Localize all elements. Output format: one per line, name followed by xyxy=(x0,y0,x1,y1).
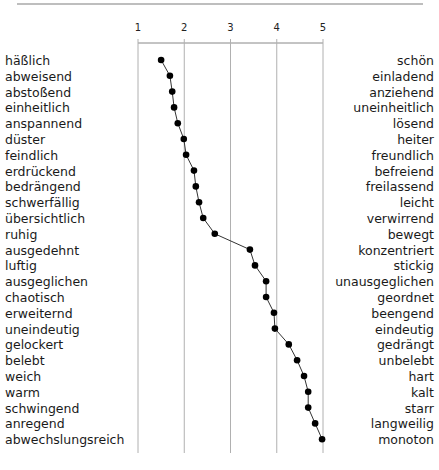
data-markers xyxy=(158,57,326,443)
data-point xyxy=(272,325,279,332)
left-label: weich xyxy=(5,369,41,384)
left-label: chaotisch xyxy=(5,290,65,305)
data-point xyxy=(174,120,181,127)
right-label: uneinheitlich xyxy=(353,100,434,115)
grid-lines xyxy=(138,39,323,453)
right-label: kalt xyxy=(411,385,434,400)
x-tick-label: 3 xyxy=(227,22,233,33)
data-point xyxy=(319,436,326,443)
data-point xyxy=(200,215,207,222)
data-point xyxy=(252,262,259,269)
data-point xyxy=(271,310,278,317)
left-label: häßlich xyxy=(5,53,50,68)
x-tick-label: 4 xyxy=(274,22,280,33)
x-tick-label: 5 xyxy=(320,22,326,33)
data-point xyxy=(305,404,312,411)
left-label: uneindeutig xyxy=(5,322,80,337)
right-label: anziehend xyxy=(369,85,434,100)
data-point xyxy=(183,152,190,159)
right-label: leicht xyxy=(400,195,434,210)
left-label: schwingend xyxy=(5,401,79,416)
profile-line xyxy=(161,60,322,439)
data-point xyxy=(196,199,203,206)
right-labels: schöneinladendanziehenduneinheitlichlöse… xyxy=(335,53,435,447)
left-label: abwechslungsreich xyxy=(5,432,124,447)
data-point xyxy=(247,246,254,253)
x-tick-label: 1 xyxy=(135,22,141,33)
right-label: beengend xyxy=(371,306,434,321)
left-label: ausgeglichen xyxy=(5,274,88,289)
right-label: freilassend xyxy=(366,179,434,194)
left-label: ausgedehnt xyxy=(5,243,79,258)
data-point xyxy=(312,420,319,427)
data-point xyxy=(211,231,218,238)
left-label: erweiternd xyxy=(5,306,73,321)
data-point xyxy=(263,294,270,301)
right-label: schön xyxy=(397,53,434,68)
left-label: bedrängend xyxy=(5,179,81,194)
left-label: schwerfällig xyxy=(5,195,80,210)
data-point xyxy=(191,167,198,174)
right-label: starr xyxy=(405,401,435,416)
data-point xyxy=(171,104,178,111)
semantic-differential-chart: 12345 häßlichabweisendabstoßendeinheitli… xyxy=(0,0,439,470)
left-label: anregend xyxy=(5,416,65,431)
right-label: konzentriert xyxy=(358,243,434,258)
data-point xyxy=(169,88,176,95)
left-label: abweisend xyxy=(5,69,72,84)
right-label: eindeutig xyxy=(375,322,434,337)
x-tick-label: 2 xyxy=(181,22,187,33)
right-label: lösend xyxy=(393,116,434,131)
right-label: gedrängt xyxy=(377,337,434,352)
left-label: gelockert xyxy=(5,337,63,352)
left-label: warm xyxy=(5,385,40,400)
left-label: übersichtlich xyxy=(5,211,85,226)
data-point xyxy=(158,57,165,64)
right-label: befreiend xyxy=(374,164,434,179)
right-label: unausgeglichen xyxy=(335,274,434,289)
left-label: anspannend xyxy=(5,116,82,131)
right-label: einladend xyxy=(372,69,434,84)
data-point xyxy=(180,136,187,143)
left-label: einheitlich xyxy=(5,100,70,115)
right-label: geordnet xyxy=(377,290,434,305)
right-label: hart xyxy=(408,369,434,384)
left-labels: häßlichabweisendabstoßendeinheitlichansp… xyxy=(5,53,124,447)
left-label: ruhig xyxy=(5,227,37,242)
left-label: abstoßend xyxy=(5,85,71,100)
left-label: erdrückend xyxy=(5,164,76,179)
data-point xyxy=(263,278,270,285)
right-label: stickig xyxy=(394,258,434,273)
right-label: monoton xyxy=(378,432,434,447)
right-label: bewegt xyxy=(388,227,434,242)
left-label: belebt xyxy=(5,353,45,368)
right-label: langweilig xyxy=(371,416,434,431)
data-point xyxy=(285,341,292,348)
right-label: freundlich xyxy=(372,148,434,163)
data-point xyxy=(301,373,308,380)
data-point xyxy=(305,389,312,396)
right-label: unbelebt xyxy=(379,353,435,368)
data-point xyxy=(193,183,200,190)
right-label: heiter xyxy=(397,132,435,147)
data-point xyxy=(294,357,301,364)
right-label: verwirrend xyxy=(367,211,434,226)
left-label: düster xyxy=(5,132,46,147)
left-label: feindlich xyxy=(5,148,58,163)
left-label: luftig xyxy=(5,258,37,273)
data-point xyxy=(167,73,174,80)
